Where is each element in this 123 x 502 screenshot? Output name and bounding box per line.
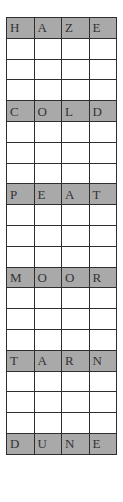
empty-letter-cell[interactable] xyxy=(34,38,62,59)
empty-letter-cell[interactable] xyxy=(62,371,90,392)
empty-letter-cell[interactable] xyxy=(7,225,35,246)
word-row: MOOR xyxy=(7,267,117,288)
given-letter-cell: O xyxy=(34,267,62,288)
given-letter-cell: E xyxy=(89,18,117,39)
empty-letter-cell[interactable] xyxy=(62,288,90,309)
empty-letter-cell[interactable] xyxy=(89,413,117,434)
blank-row xyxy=(7,121,117,142)
empty-letter-cell[interactable] xyxy=(89,59,117,80)
empty-letter-cell[interactable] xyxy=(62,392,90,413)
word-row: HAZE xyxy=(7,18,117,39)
empty-letter-cell[interactable] xyxy=(62,163,90,184)
given-letter-cell: A xyxy=(34,18,62,39)
given-letter-cell: D xyxy=(7,433,35,454)
empty-letter-cell[interactable] xyxy=(7,413,35,434)
empty-letter-cell[interactable] xyxy=(62,413,90,434)
empty-letter-cell[interactable] xyxy=(62,142,90,163)
empty-letter-cell[interactable] xyxy=(62,329,90,350)
given-letter-cell: L xyxy=(62,101,90,122)
empty-letter-cell[interactable] xyxy=(89,371,117,392)
empty-letter-cell[interactable] xyxy=(89,329,117,350)
empty-letter-cell[interactable] xyxy=(7,38,35,59)
empty-letter-cell[interactable] xyxy=(7,371,35,392)
blank-row xyxy=(7,371,117,392)
empty-letter-cell[interactable] xyxy=(34,246,62,267)
empty-letter-cell[interactable] xyxy=(62,225,90,246)
empty-letter-cell[interactable] xyxy=(34,225,62,246)
blank-row xyxy=(7,38,117,59)
empty-letter-cell[interactable] xyxy=(62,80,90,101)
empty-letter-cell[interactable] xyxy=(89,288,117,309)
empty-letter-cell[interactable] xyxy=(89,309,117,330)
empty-letter-cell[interactable] xyxy=(34,59,62,80)
empty-letter-cell[interactable] xyxy=(34,329,62,350)
given-letter-cell: H xyxy=(7,18,35,39)
given-letter-cell: T xyxy=(7,350,35,371)
empty-letter-cell[interactable] xyxy=(34,288,62,309)
word-row: TARN xyxy=(7,350,117,371)
word-row: DUNE xyxy=(7,433,117,454)
empty-letter-cell[interactable] xyxy=(34,142,62,163)
given-letter-cell: C xyxy=(7,101,35,122)
given-letter-cell: D xyxy=(89,101,117,122)
empty-letter-cell[interactable] xyxy=(7,288,35,309)
empty-letter-cell[interactable] xyxy=(89,392,117,413)
empty-letter-cell[interactable] xyxy=(7,392,35,413)
given-letter-cell: N xyxy=(62,433,90,454)
given-letter-cell: Z xyxy=(62,18,90,39)
given-letter-cell: M xyxy=(7,267,35,288)
given-letter-cell: A xyxy=(34,350,62,371)
empty-letter-cell[interactable] xyxy=(34,121,62,142)
blank-row xyxy=(7,329,117,350)
blank-row xyxy=(7,288,117,309)
empty-letter-cell[interactable] xyxy=(34,163,62,184)
empty-letter-cell[interactable] xyxy=(62,205,90,226)
empty-letter-cell[interactable] xyxy=(89,246,117,267)
given-letter-cell: T xyxy=(89,184,117,205)
blank-row xyxy=(7,225,117,246)
empty-letter-cell[interactable] xyxy=(89,121,117,142)
blank-row xyxy=(7,413,117,434)
blank-row xyxy=(7,246,117,267)
given-letter-cell: P xyxy=(7,184,35,205)
empty-letter-cell[interactable] xyxy=(89,163,117,184)
empty-letter-cell[interactable] xyxy=(7,121,35,142)
empty-letter-cell[interactable] xyxy=(89,80,117,101)
grid-body: HAZECOLDPEATMOORTARNDUNE xyxy=(7,18,117,455)
blank-row xyxy=(7,80,117,101)
empty-letter-cell[interactable] xyxy=(34,392,62,413)
empty-letter-cell[interactable] xyxy=(34,80,62,101)
given-letter-cell: E xyxy=(34,184,62,205)
empty-letter-cell[interactable] xyxy=(89,225,117,246)
word-row: PEAT xyxy=(7,184,117,205)
empty-letter-cell[interactable] xyxy=(89,205,117,226)
empty-letter-cell[interactable] xyxy=(62,38,90,59)
empty-letter-cell[interactable] xyxy=(7,309,35,330)
empty-letter-cell[interactable] xyxy=(62,246,90,267)
given-letter-cell: R xyxy=(62,350,90,371)
blank-row xyxy=(7,392,117,413)
given-letter-cell: E xyxy=(89,433,117,454)
empty-letter-cell[interactable] xyxy=(7,246,35,267)
empty-letter-cell[interactable] xyxy=(7,329,35,350)
blank-row xyxy=(7,163,117,184)
empty-letter-cell[interactable] xyxy=(34,371,62,392)
empty-letter-cell[interactable] xyxy=(7,80,35,101)
empty-letter-cell[interactable] xyxy=(7,163,35,184)
given-letter-cell: O xyxy=(62,267,90,288)
empty-letter-cell[interactable] xyxy=(62,121,90,142)
empty-letter-cell[interactable] xyxy=(34,309,62,330)
empty-letter-cell[interactable] xyxy=(62,59,90,80)
empty-letter-cell[interactable] xyxy=(34,205,62,226)
blank-row xyxy=(7,205,117,226)
given-letter-cell: U xyxy=(34,433,62,454)
empty-letter-cell[interactable] xyxy=(89,142,117,163)
empty-letter-cell[interactable] xyxy=(7,142,35,163)
empty-letter-cell[interactable] xyxy=(7,59,35,80)
empty-letter-cell[interactable] xyxy=(34,413,62,434)
empty-letter-cell[interactable] xyxy=(7,205,35,226)
given-letter-cell: R xyxy=(89,267,117,288)
empty-letter-cell[interactable] xyxy=(62,309,90,330)
empty-letter-cell[interactable] xyxy=(89,38,117,59)
word-ladder-grid: HAZECOLDPEATMOORTARNDUNE xyxy=(6,17,117,455)
